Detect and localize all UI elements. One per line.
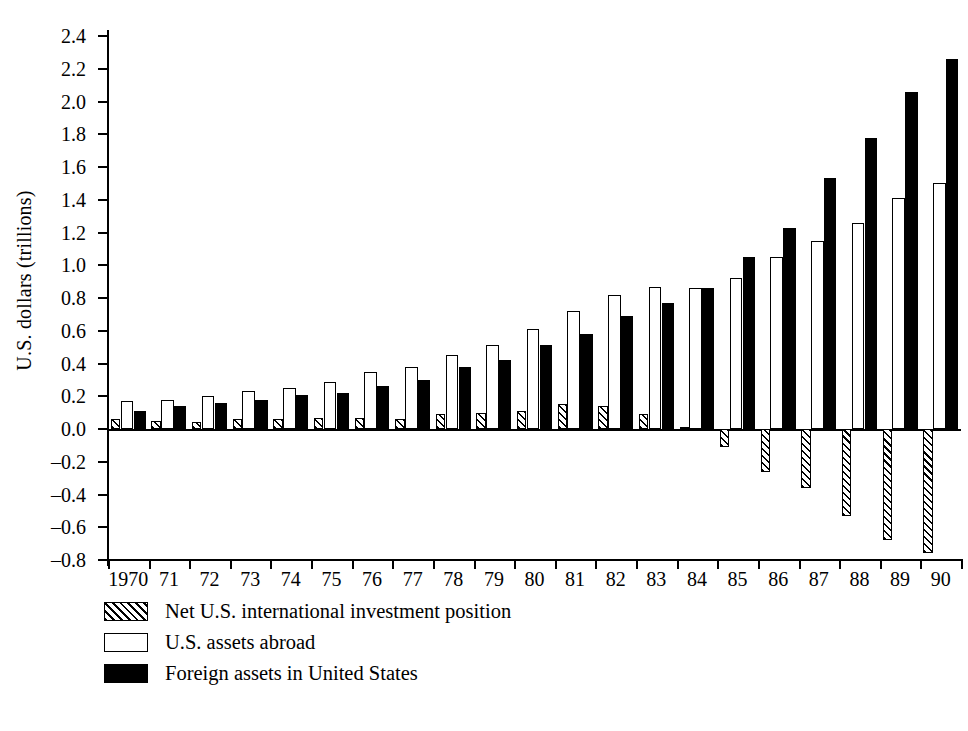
y-tick-label: –0.8 <box>0 550 86 570</box>
y-tick-label: 0.8 <box>0 288 86 308</box>
bar-foreign-assets <box>783 228 795 429</box>
bar-us-assets-abroad <box>567 311 580 429</box>
bar-foreign-assets <box>905 92 917 429</box>
x-tick-label: 78 <box>443 568 463 591</box>
bar-us-assets-abroad <box>161 400 174 429</box>
plot-area <box>108 36 961 560</box>
x-tick <box>799 559 801 569</box>
bar-net-position <box>355 418 364 429</box>
y-tick <box>98 559 108 561</box>
y-tick <box>98 494 108 496</box>
y-tick-label: 0.0 <box>0 419 86 439</box>
bar-us-assets-abroad <box>486 345 499 429</box>
x-tick-label: 85 <box>728 568 748 591</box>
x-tick-label: 84 <box>687 568 707 591</box>
bar-net-position <box>883 429 892 540</box>
x-tick <box>717 559 719 569</box>
y-tick <box>98 35 108 37</box>
x-tick <box>514 559 516 569</box>
black-swatch-icon <box>104 664 148 683</box>
x-tick <box>352 559 354 569</box>
legend-label-net: Net U.S. international investment positi… <box>165 601 511 622</box>
x-tick-label: 73 <box>240 568 260 591</box>
bar-foreign-assets <box>824 178 836 429</box>
bar-net-position <box>598 406 607 429</box>
bar-foreign-assets <box>702 288 714 429</box>
bar-net-position <box>395 419 404 429</box>
legend-label-abroad: U.S. assets abroad <box>165 632 315 653</box>
y-tick-label: 1.2 <box>0 223 86 243</box>
bar-foreign-assets <box>418 380 430 429</box>
x-tick-label: 75 <box>321 568 341 591</box>
y-tick <box>98 428 108 430</box>
y-axis-title: U.S. dollars (trillions) <box>4 0 44 560</box>
bar-foreign-assets <box>134 411 146 429</box>
x-tick-label: 1970 <box>108 568 148 591</box>
x-tick-label: 77 <box>403 568 423 591</box>
bar-net-position <box>111 419 120 429</box>
x-tick-label: 87 <box>809 568 829 591</box>
y-tick <box>98 199 108 201</box>
x-tick <box>636 559 638 569</box>
bar-us-assets-abroad <box>202 396 215 429</box>
bar-foreign-assets <box>255 400 267 429</box>
bar-foreign-assets <box>174 406 186 429</box>
x-tick <box>474 559 476 569</box>
bar-us-assets-abroad <box>324 382 337 429</box>
bar-foreign-assets <box>580 334 592 429</box>
bar-net-position <box>273 419 282 429</box>
bar-net-position <box>233 419 242 429</box>
chart-figure: U.S. dollars (trillions) 2.42.22.01.81.6… <box>0 0 968 731</box>
bar-foreign-assets <box>743 257 755 429</box>
y-tick-label: –0.4 <box>0 485 86 505</box>
bar-net-position <box>192 422 201 429</box>
y-tick-label: 1.6 <box>0 157 86 177</box>
bar-us-assets-abroad <box>852 223 865 429</box>
bar-net-position <box>680 427 689 429</box>
bar-net-position <box>558 404 567 429</box>
x-tick <box>595 559 597 569</box>
bar-foreign-assets <box>296 395 308 429</box>
y-tick <box>98 68 108 70</box>
bar-us-assets-abroad <box>405 367 418 429</box>
x-tick-label: 79 <box>484 568 504 591</box>
y-tick-label: 1.4 <box>0 190 86 210</box>
bar-foreign-assets <box>865 138 877 429</box>
bar-foreign-assets <box>662 303 674 429</box>
x-tick <box>392 559 394 569</box>
y-tick <box>98 330 108 332</box>
bar-foreign-assets <box>499 360 511 429</box>
x-tick-label: 80 <box>525 568 545 591</box>
bar-net-position <box>923 429 932 553</box>
x-tick-label: 76 <box>362 568 382 591</box>
bar-us-assets-abroad <box>364 372 377 429</box>
bar-foreign-assets <box>459 367 471 429</box>
bar-net-position <box>639 414 648 429</box>
y-tick <box>98 264 108 266</box>
x-tick <box>230 559 232 569</box>
bar-us-assets-abroad <box>649 287 662 429</box>
bar-us-assets-abroad <box>770 257 783 429</box>
bar-net-position <box>476 413 485 429</box>
x-tick-label: 81 <box>565 568 585 591</box>
bar-net-position <box>761 429 770 472</box>
bar-us-assets-abroad <box>608 295 621 429</box>
legend-item-abroad: U.S. assets abroad <box>104 627 511 658</box>
x-tick <box>677 559 679 569</box>
y-tick <box>98 166 108 168</box>
bar-us-assets-abroad <box>121 401 134 429</box>
x-tick-label: 88 <box>849 568 869 591</box>
y-tick <box>98 101 108 103</box>
y-tick-label: 2.4 <box>0 26 86 46</box>
bar-us-assets-abroad <box>242 391 255 429</box>
y-axis-title-text: U.S. dollars (trillions) <box>13 190 36 370</box>
y-tick <box>98 133 108 135</box>
legend-label-foreign: Foreign assets in United States <box>165 663 418 684</box>
x-tick-label: 90 <box>931 568 951 591</box>
bar-foreign-assets <box>337 393 349 429</box>
y-tick <box>98 232 108 234</box>
bar-net-position <box>517 411 526 429</box>
y-tick-label: 1.0 <box>0 255 86 275</box>
hatched-swatch-icon <box>104 602 148 621</box>
bar-us-assets-abroad <box>689 288 702 429</box>
